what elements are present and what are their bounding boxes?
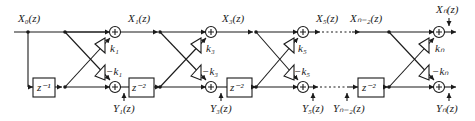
lattice-stage-5: k₅ −k₅ X₅(z) Xₙ₋₂(z) Y₅(z) Yₙ₋₂(z) z⁻² bbox=[254, 12, 388, 115]
svg-text:−kₙ: −kₙ bbox=[432, 65, 449, 77]
signal-y1-label: Y₁(z) bbox=[113, 102, 135, 115]
svg-text:k₁: k₁ bbox=[110, 42, 119, 54]
svg-text:−k₃: −k₃ bbox=[202, 65, 218, 77]
lattice-stage-3: k₃ −k₃ X₃(z) z⁻² Y₃(z) bbox=[158, 12, 256, 115]
multiplier-neg-k1 bbox=[95, 65, 105, 80]
signal-yn-label: Yₙ(z) bbox=[436, 102, 458, 115]
lattice-filter-diagram: z⁻¹ X₀(z) k₁ −k₁ X₁(z) z⁻² Y₁(z) bbox=[0, 0, 475, 121]
svg-text:z⁻²: z⁻² bbox=[361, 81, 376, 93]
signal-x5-label: X₅(z) bbox=[315, 12, 338, 25]
multiplier-kn bbox=[419, 38, 429, 53]
multiplier-neg-k5 bbox=[284, 65, 294, 80]
svg-text:−k₁: −k₁ bbox=[106, 65, 122, 77]
lattice-stage-1: k₁ −k₁ X₁(z) z⁻² Y₁(z) bbox=[63, 12, 160, 115]
svg-text:kₙ: kₙ bbox=[435, 42, 445, 54]
signal-x0-label: X₀(z) bbox=[17, 12, 40, 25]
signal-xn2-label: Xₙ₋₂(z) bbox=[349, 12, 382, 25]
signal-x3-label: X₃(z) bbox=[221, 12, 244, 25]
svg-text:z⁻²: z⁻² bbox=[131, 81, 146, 93]
input-section: z⁻¹ X₀(z) bbox=[14, 12, 108, 97]
multiplier-k5 bbox=[284, 38, 294, 53]
svg-text:k₅: k₅ bbox=[298, 42, 307, 54]
svg-text:−k₅: −k₅ bbox=[294, 65, 310, 77]
multiplier-k1 bbox=[95, 38, 105, 53]
signal-xn-label: Xₙ(z) bbox=[435, 3, 459, 16]
multiplier-k3 bbox=[191, 38, 201, 53]
signal-x1-label: X₁(z) bbox=[127, 12, 150, 25]
multiplier-neg-k3 bbox=[191, 65, 201, 80]
svg-text:k₃: k₃ bbox=[206, 42, 215, 54]
multiplier-neg-kn bbox=[419, 65, 429, 80]
delay-label: z⁻¹ bbox=[36, 81, 51, 93]
signal-yn2-label: Yₙ₋₂(z) bbox=[333, 102, 365, 115]
svg-text:z⁻²: z⁻² bbox=[229, 81, 244, 93]
signal-y3-label: Y₃(z) bbox=[210, 102, 232, 115]
signal-y5-label: Y₅(z) bbox=[302, 102, 324, 115]
